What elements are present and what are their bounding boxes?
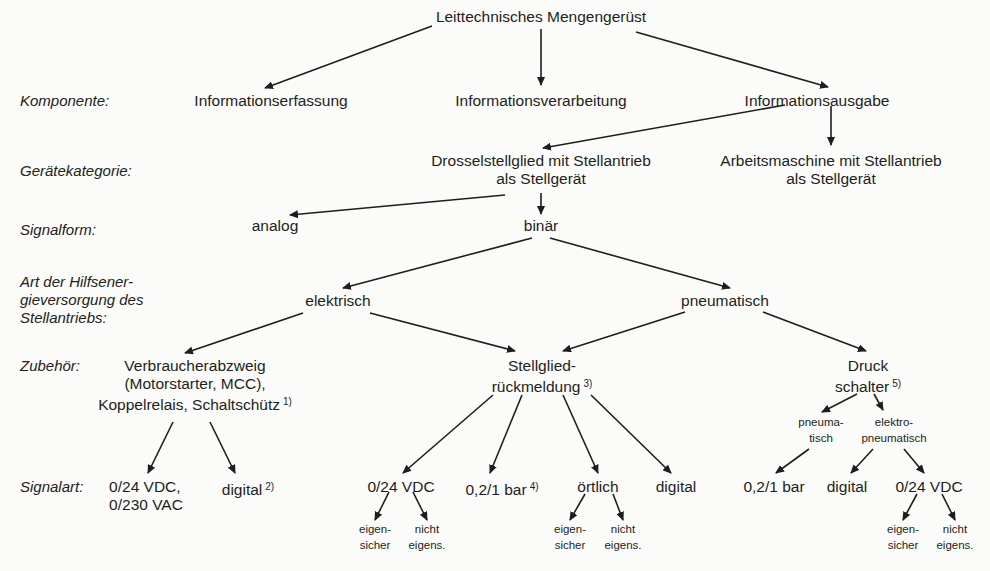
node-ds-elektropneu-line-2: pneumatisch (861, 430, 926, 446)
node-stellgliedrueckmeldung: Stellglied- rückmeldung3) (492, 357, 593, 396)
node-sig-digital-verbraucher-text: digital (222, 481, 263, 498)
node-sig-rm-vdc-nes-2: eigens. (408, 537, 445, 553)
node-sig-rm-vdc-eigensicher: eigen- sicher (359, 521, 391, 553)
node-sig-rm-digital: digital (656, 478, 697, 496)
node-sig-ds-vdc-nes-1: nicht (936, 521, 973, 537)
node-sig-ds-vdc-es-2: sicher (887, 537, 919, 553)
node-drosselstellglied-line-1: Drosselstellglied mit Stellantrieb (431, 152, 651, 170)
node-sig-ds-vdc: 0/24 VDC (895, 478, 962, 496)
node-sig-ds-digital: digital (827, 478, 868, 496)
node-analog: analog (252, 217, 299, 235)
row-label-hilfsenergie: Art der Hilfsener- gieversorgung des Ste… (20, 273, 143, 327)
row-label-hilfsenergie-line-3: Stellantriebs: (20, 309, 143, 327)
node-druckschalter: Druck schalter5) (835, 357, 901, 396)
node-sig-vdc-vac-line-2: 0/230 VAC (109, 496, 183, 514)
node-ds-pneumatisch-line-1: pneuma- (798, 414, 843, 430)
footnote-4: 4) (530, 481, 539, 492)
node-sig-rm-ort-nes-2: eigens. (604, 537, 641, 553)
node-sig-rm-oertlich-nicht-eigensicher: nicht eigens. (604, 521, 641, 553)
node-verbraucher-line-2: (Motorstarter, MCC), (98, 375, 292, 393)
node-sig-rm-ort-es-2: sicher (554, 537, 586, 553)
row-label-signalart: Signalart: (20, 478, 83, 496)
row-label-hilfsenergie-line-2: gieversorgung des (20, 291, 143, 309)
node-drosselstellglied-line-2: als Stellgerät (431, 170, 651, 188)
node-sig-rm-vdc: 0/24 VDC (367, 478, 434, 496)
row-label-hilfsenergie-line-1: Art der Hilfsener- (20, 273, 143, 291)
node-sig-rm-bar-text: 0,2/1 bar (465, 481, 526, 498)
node-verbraucher-line-3-text: Koppelrelais, Schaltschütz (98, 396, 280, 413)
node-verbraucherabzweig: Verbraucherabzweig (Motorstarter, MCC), … (98, 357, 292, 414)
node-sig-rm-ort-es-1: eigen- (554, 521, 586, 537)
node-informationsverarbeitung: Informationsverarbeitung (455, 92, 626, 110)
node-druckschalter-line-2-text: schalter (835, 378, 889, 395)
node-verbraucher-line-3: Koppelrelais, Schaltschütz1) (98, 393, 292, 414)
node-arbeitsmaschine-line-2: als Stellgerät (720, 170, 941, 188)
row-label-signalform: Signalform: (20, 221, 96, 239)
node-sig-rm-oertlich: örtlich (577, 478, 618, 496)
node-sig-digital-verbraucher: digital2) (222, 478, 274, 499)
node-drosselstellglied: Drosselstellglied mit Stellantrieb als S… (431, 152, 651, 188)
node-druckschalter-line-1: Druck (835, 357, 901, 375)
row-label-zubehoer: Zubehör: (20, 357, 80, 375)
node-druckschalter-elektropneumatisch: elektro- pneumatisch (861, 414, 926, 446)
node-sig-rm-oertlich-eigensicher: eigen- sicher (554, 521, 586, 553)
row-label-geraetekategorie: Gerätekategorie: (20, 162, 132, 180)
footnote-5: 5) (892, 378, 901, 389)
node-arbeitsmaschine: Arbeitsmaschine mit Stellantrieb als Ste… (720, 152, 941, 188)
node-elektrisch: elektrisch (305, 292, 370, 310)
node-sig-vdc-vac: 0/24 VDC, 0/230 VAC (109, 478, 183, 514)
node-sig-ds-vdc-nicht-eigensicher: nicht eigens. (936, 521, 973, 553)
node-sig-ds-vdc-eigensicher: eigen- sicher (887, 521, 919, 553)
node-informationserfassung: Informationserfassung (194, 92, 347, 110)
node-sig-ds-bar: 0,2/1 bar (743, 478, 804, 496)
node-sig-ds-vdc-nes-2: eigens. (936, 537, 973, 553)
node-sig-rm-bar: 0,2/1 bar4) (465, 478, 538, 499)
node-sig-rm-vdc-es-1: eigen- (359, 521, 391, 537)
node-sig-ds-vdc-es-1: eigen- (887, 521, 919, 537)
diagram-title: Leittechnisches Mengengerüst (436, 8, 646, 26)
node-verbraucher-line-1: Verbraucherabzweig (98, 357, 292, 375)
node-sig-rm-vdc-nicht-eigensicher: nicht eigens. (408, 521, 445, 553)
node-ds-pneumatisch-line-2: tisch (798, 430, 843, 446)
node-rueckmeldung-line-2-text: rückmeldung (492, 378, 581, 395)
node-sig-vdc-vac-line-1: 0/24 VDC, (109, 478, 183, 496)
node-binaer: binär (524, 217, 558, 235)
node-pneumatisch: pneumatisch (681, 292, 769, 310)
node-rueckmeldung-line-2: rückmeldung3) (492, 375, 593, 396)
footnote-2: 2) (265, 481, 274, 492)
footnote-1: 1) (283, 396, 292, 407)
node-sig-rm-vdc-nes-1: nicht (408, 521, 445, 537)
node-ds-elektropneu-line-1: elektro- (861, 414, 926, 430)
node-sig-rm-vdc-es-2: sicher (359, 537, 391, 553)
node-informationsausgabe: Informationsausgabe (745, 92, 890, 110)
row-label-komponente: Komponente: (20, 92, 109, 110)
node-druckschalter-pneumatisch: pneuma- tisch (798, 414, 843, 446)
node-arbeitsmaschine-line-1: Arbeitsmaschine mit Stellantrieb (720, 152, 941, 170)
footnote-3: 3) (583, 378, 592, 389)
node-druckschalter-line-2: schalter5) (835, 375, 901, 396)
node-rueckmeldung-line-1: Stellglied- (492, 357, 593, 375)
node-sig-rm-ort-nes-1: nicht (604, 521, 641, 537)
